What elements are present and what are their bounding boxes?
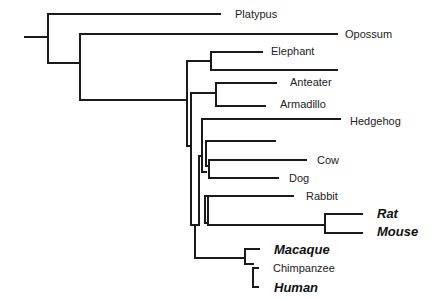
leaf-label-dog: Dog bbox=[289, 172, 309, 184]
leaf-label-armadillo: Armadillo bbox=[280, 98, 326, 110]
leaf-label-chimpanzee: Chimpanzee bbox=[273, 262, 335, 274]
leaf-label-rat: Rat bbox=[377, 206, 398, 221]
leaf-label-anteater: Anteater bbox=[290, 76, 332, 88]
phylogenetic-tree: Platypus Opossum Elephant Anteater Armad… bbox=[0, 0, 443, 299]
leaf-label-mouse: Mouse bbox=[377, 224, 418, 239]
leaf-label-opossum: Opossum bbox=[345, 28, 392, 40]
leaf-label-hedgehog: Hedgehog bbox=[350, 115, 401, 127]
leaf-label-rabbit: Rabbit bbox=[306, 190, 338, 202]
leaf-label-macaque: Macaque bbox=[274, 242, 330, 257]
leaf-label-cow: Cow bbox=[317, 154, 339, 166]
leaf-label-platypus: Platypus bbox=[235, 8, 277, 20]
leaf-label-elephant: Elephant bbox=[271, 45, 314, 57]
leaf-label-human: Human bbox=[274, 280, 318, 295]
tree-branches bbox=[0, 0, 443, 299]
